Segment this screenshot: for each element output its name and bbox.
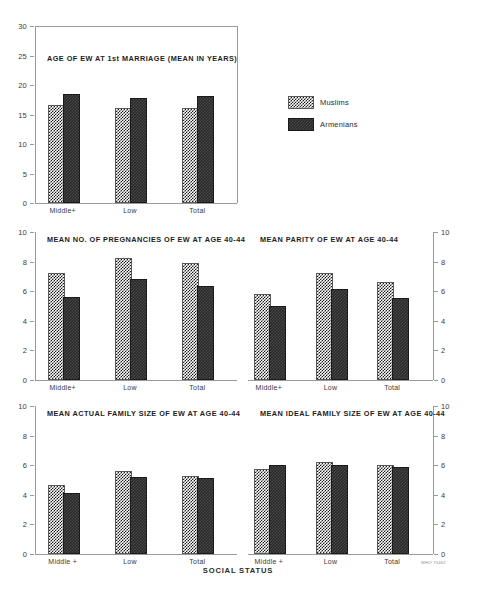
y-tick-label: 4 — [5, 490, 27, 499]
bar-armenians-total — [392, 467, 409, 554]
bar-armenians-middle — [63, 94, 80, 203]
legend-item-armenians: Armenians — [288, 118, 358, 131]
y-tick — [30, 350, 34, 351]
bar-armenians-middle — [63, 297, 80, 380]
x-tick-label: Middle+ — [256, 384, 282, 391]
y-tick-label: 10 — [5, 228, 27, 237]
y-tick-label: 15 — [5, 110, 27, 119]
y-tick-label: 8 — [441, 257, 445, 266]
x-axis-line — [35, 203, 237, 204]
x-tick-label: Low — [123, 207, 137, 214]
x-tick-label: Middle + — [255, 558, 284, 565]
y-tick-label: 8 — [5, 431, 27, 440]
y-tick — [434, 524, 438, 525]
y-tick — [30, 495, 34, 496]
x-tick-label: Total — [384, 384, 400, 391]
y-tick — [30, 380, 34, 381]
y-tick — [30, 524, 34, 525]
y-tick — [30, 232, 34, 233]
y-tick — [434, 321, 438, 322]
y-tick — [30, 465, 34, 466]
y-axis-line — [35, 26, 36, 203]
y-tick-label: 6 — [441, 287, 445, 296]
y-tick — [30, 26, 34, 27]
x-tick-label: Low — [324, 558, 338, 565]
bar-armenians-total — [197, 286, 214, 380]
x-axis-line — [35, 380, 237, 381]
y-tick — [434, 465, 438, 466]
y-tick — [30, 56, 34, 57]
y-tick — [434, 262, 438, 263]
y-tick-label: 6 — [441, 461, 445, 470]
x-axis-line — [35, 554, 237, 555]
y-tick — [30, 85, 34, 86]
y-tick-label: 0 — [5, 376, 27, 385]
bar-armenians-low — [130, 279, 147, 380]
y-tick — [30, 291, 34, 292]
y-tick-label: 2 — [5, 346, 27, 355]
x-tick-label: Total — [189, 207, 205, 214]
y-tick — [434, 380, 438, 381]
bar-armenians-total — [392, 298, 409, 380]
chart-panel-bottom-left: 0246810MEAN ACTUAL FAMILY SIZE OF EW AT … — [35, 406, 237, 554]
y-tick-label: 10 — [5, 140, 27, 149]
bar-armenians-low — [331, 289, 348, 380]
y-axis-line — [35, 406, 36, 554]
chart-panel-top-left: 051015202530AGE OF EW AT 1st MARRIAGE (M… — [35, 26, 237, 203]
y-tick — [434, 436, 438, 437]
y-tick — [30, 262, 34, 263]
legend-swatch-icon — [288, 118, 314, 131]
y-tick — [30, 406, 34, 407]
chart-panel-middle-right: 0246810MEAN PARITY OF EW AT AGE 40-44Mid… — [248, 232, 433, 380]
x-tick-label: Middle+ — [49, 384, 75, 391]
y-tick-label: 0 — [441, 376, 445, 385]
chart-panel-middle-left: 0246810MEAN NO. OF PREGNANCIES OF EW AT … — [35, 232, 237, 380]
x-tick-label: Middle + — [48, 558, 77, 565]
chart-panel-bottom-right: 0246810MEAN IDEAL FAMILY SIZE OF EW AT A… — [248, 406, 433, 554]
y-tick-label: 8 — [5, 257, 27, 266]
y-tick — [30, 203, 34, 204]
legend-swatch-icon — [288, 96, 314, 109]
y-tick-label: 2 — [441, 520, 445, 529]
panel-title: MEAN PARITY OF EW AT AGE 40-44 — [260, 235, 398, 244]
x-axis-line — [248, 380, 433, 381]
bar-armenians-middle — [269, 465, 286, 554]
y-tick — [434, 350, 438, 351]
y-tick-label: 4 — [5, 316, 27, 325]
bar-armenians-middle — [63, 493, 80, 554]
y-tick — [30, 115, 34, 116]
bar-armenians-total — [197, 478, 214, 554]
y-tick-label: 5 — [5, 169, 27, 178]
panel-title: AGE OF EW AT 1st MARRIAGE (MEAN IN YEARS… — [47, 54, 237, 63]
bar-armenians-low — [130, 477, 147, 554]
y-tick — [434, 495, 438, 496]
x-tick-label: Total — [189, 384, 205, 391]
y-axis-line — [35, 232, 36, 380]
y-tick-label: 4 — [441, 316, 445, 325]
y-tick-label: 20 — [5, 81, 27, 90]
bar-armenians-middle — [269, 306, 286, 380]
x-axis-title: SOCIAL STATUS — [203, 566, 273, 575]
y-tick-label: 0 — [5, 550, 27, 559]
y-tick — [434, 232, 438, 233]
x-tick-label: Low — [123, 558, 137, 565]
y-tick — [434, 291, 438, 292]
x-tick-label: Total — [189, 558, 205, 565]
x-axis-line — [248, 554, 433, 555]
panel-title: MEAN NO. OF PREGNANCIES OF EW AT AGE 40-… — [47, 235, 245, 244]
y-tick-label: 30 — [5, 22, 27, 31]
y-tick — [434, 554, 438, 555]
y-tick-label: 0 — [441, 550, 445, 559]
y-tick — [434, 406, 438, 407]
y-tick-label: 8 — [441, 431, 445, 440]
x-tick-label: Low — [324, 384, 338, 391]
legend-item-muslims: Muslims — [288, 96, 358, 109]
y-tick — [30, 554, 34, 555]
bar-armenians-low — [331, 465, 348, 554]
y-axis-line — [433, 406, 434, 554]
y-tick-label: 0 — [5, 199, 27, 208]
source-credit: WHO 75462 — [421, 560, 446, 565]
bar-armenians-low — [130, 98, 147, 203]
y-tick — [30, 174, 34, 175]
legend-label: Armenians — [320, 120, 358, 129]
